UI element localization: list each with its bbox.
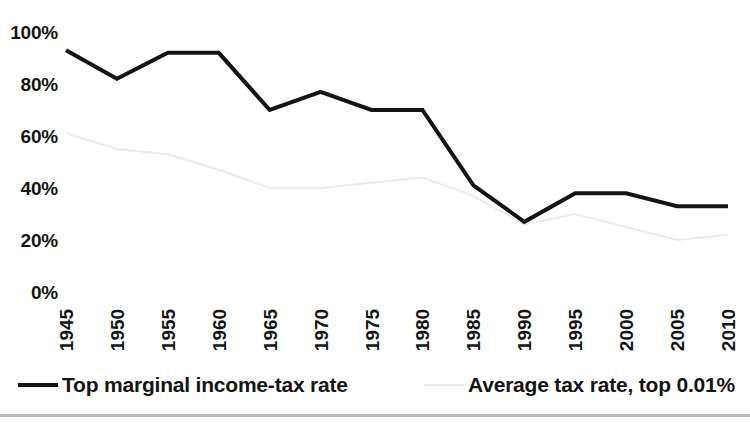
legend-label: Average tax rate, top 0.01% bbox=[468, 373, 735, 397]
x-axis-tick-label-text: 1965 bbox=[260, 309, 279, 351]
x-axis-tick-label-text: 2000 bbox=[617, 309, 636, 351]
x-axis-tick-label-text: 1950 bbox=[107, 309, 126, 351]
bottom-divider bbox=[0, 414, 750, 417]
series-line bbox=[66, 50, 728, 222]
x-axis-tick-label-text: 1945 bbox=[57, 309, 76, 351]
legend-swatch-line-black bbox=[18, 383, 58, 387]
legend-swatch-line-gray bbox=[424, 384, 464, 386]
x-axis-tick-label-text: 1970 bbox=[311, 309, 330, 351]
x-axis-tick-label-text: 1955 bbox=[158, 309, 177, 351]
legend-label: Top marginal income-tax rate bbox=[62, 373, 348, 397]
tax-rates-line-chart: 0%20%40%60%80%100% 194519501955196019651… bbox=[0, 0, 750, 422]
series-line bbox=[66, 133, 728, 240]
x-axis-tick-label-text: 1990 bbox=[515, 309, 534, 351]
legend-item-average-tax-rate-top-001: Average tax rate, top 0.01% bbox=[424, 368, 735, 402]
x-axis-tick-label-text: 1985 bbox=[464, 309, 483, 351]
chart-legend: Top marginal income-tax rate Average tax… bbox=[0, 368, 750, 408]
x-axis-tick-label-text: 2010 bbox=[719, 309, 738, 351]
x-axis-tick-labels: 1945195019551960196519701975198019851990… bbox=[0, 300, 750, 362]
x-axis-tick-label-text: 1980 bbox=[413, 309, 432, 351]
x-axis-tick-label-text: 1975 bbox=[362, 309, 381, 351]
x-axis-tick-label-text: 1960 bbox=[209, 309, 228, 351]
legend-item-top-marginal-income-tax-rate: Top marginal income-tax rate bbox=[18, 368, 348, 402]
x-axis-tick-label-text: 2005 bbox=[668, 309, 687, 351]
x-axis-tick-label-text: 1995 bbox=[566, 309, 585, 351]
x-axis-tick-label: 2010 bbox=[698, 300, 750, 360]
